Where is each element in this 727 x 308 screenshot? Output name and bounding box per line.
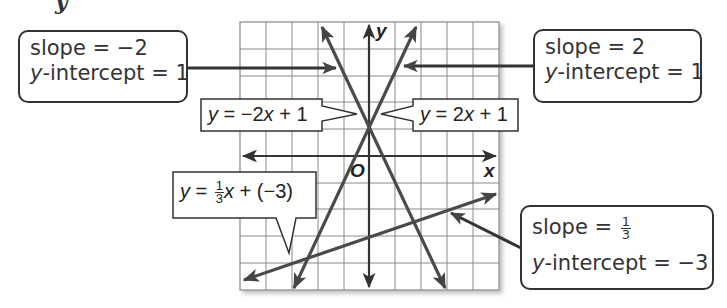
equation-third: y = 13x + (−3) [180,180,293,205]
equation-pos2: y = 2x + 1 [420,103,508,126]
intercept-text: y-intercept = −3 [532,251,712,276]
equation-neg2: y = −2x + 1 [208,103,308,126]
fraction-one-third: 13 [621,216,631,241]
slope-text: slope = −2 [30,36,186,61]
intercept-text: y-intercept = 1 [545,60,700,85]
intercept-text: y-intercept = 1 [30,61,186,86]
origin-label: O [350,160,365,182]
y-axis-label: y [376,20,387,42]
fraction-one-third: 13 [215,180,224,205]
x-axis-label: x [484,160,495,182]
callout-bottom-right: slope = 13 y-intercept = −3 [520,205,714,290]
slope-text: slope = 13 [532,215,712,251]
callout-top-right: slope = 2 y-intercept = 1 [533,29,702,103]
callout-top-left: slope = −2 y-intercept = 1 [18,30,188,103]
slope-text: slope = 2 [545,35,700,60]
